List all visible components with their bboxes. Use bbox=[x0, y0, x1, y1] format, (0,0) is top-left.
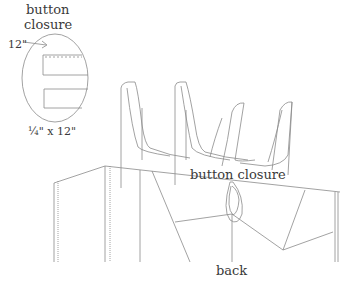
detail-title-line1: button bbox=[26, 3, 69, 17]
closure-label: button closure bbox=[190, 168, 286, 182]
detail-title-line2: closure bbox=[24, 18, 72, 32]
detail-measure-bottom: ¼" x 12" bbox=[28, 125, 76, 139]
detail-measure-top: 12" bbox=[8, 38, 27, 52]
view-label: back bbox=[216, 264, 247, 278]
detail-ellipse bbox=[22, 34, 88, 122]
bag-back-diagram bbox=[0, 0, 349, 294]
